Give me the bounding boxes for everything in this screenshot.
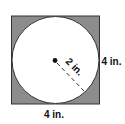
side-length-label-bottom: 4 in. — [44, 109, 64, 120]
center-point — [53, 58, 58, 63]
side-length-label-right: 4 in. — [102, 56, 122, 67]
geometry-diagram: 2 in. 4 in. 4 in. — [0, 0, 125, 124]
